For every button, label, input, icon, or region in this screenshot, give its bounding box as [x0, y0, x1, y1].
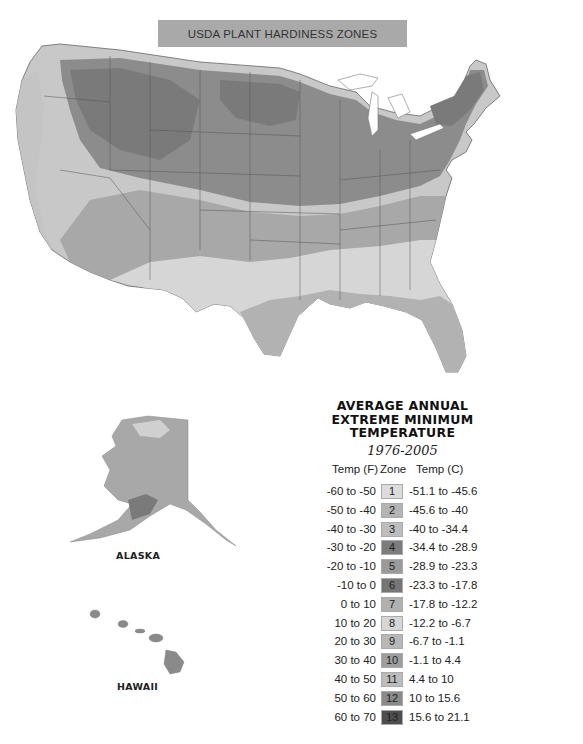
legend-temp-f: -10 to 0	[337, 579, 376, 591]
zone-swatch: 10	[381, 653, 403, 668]
legend-row: 10 to 208-12.2 to -6.7	[320, 615, 520, 634]
legend-temp-c: 10 to 15.6	[409, 692, 460, 704]
legend-row: -10 to 06-23.3 to -17.8	[320, 577, 520, 596]
legend-temp-f: 20 to 30	[334, 635, 376, 647]
legend-temp-c: -45.6 to -40	[409, 504, 468, 516]
legend-temp-c: -40 to -34.4	[409, 523, 468, 535]
legend-temp-f: -60 to -50	[327, 485, 376, 497]
zone-swatch: 12	[381, 691, 403, 706]
legend-temp-f: 40 to 50	[334, 673, 376, 685]
alaska-label: ALASKA	[116, 550, 160, 561]
legend-temp-c: -28.9 to -23.3	[409, 560, 477, 572]
legend-row: -40 to -303-40 to -34.4	[320, 521, 520, 540]
legend-period: 1976-2005	[310, 443, 495, 458]
legend-col-temp-c: Temp (C)	[416, 463, 463, 475]
zone-swatch: 6	[381, 578, 403, 593]
zone-swatch: 11	[381, 672, 403, 687]
legend-title: AVERAGE ANNUAL EXTREME MINIMUM TEMPERATU…	[310, 399, 495, 440]
gulf-coast-band	[240, 290, 466, 372]
legend-row: -20 to -105-28.9 to -23.3	[320, 558, 520, 577]
legend-row: 60 to 701315.6 to 21.1	[320, 709, 520, 728]
hawaii-label: HAWAII	[117, 681, 158, 692]
legend-title-line-1: AVERAGE ANNUAL	[310, 399, 495, 413]
legend-title-line-2: EXTREME MINIMUM	[310, 413, 495, 427]
legend-temp-c: 4.4 to 10	[409, 673, 454, 685]
zone-swatch: 1	[381, 484, 403, 499]
zone-swatch: 3	[381, 522, 403, 537]
legend-temp-c: -17.8 to -12.2	[409, 598, 477, 610]
lake-superior	[338, 74, 378, 90]
legend-temp-f: 60 to 70	[334, 711, 376, 723]
legend-temp-f: -50 to -40	[327, 504, 376, 516]
legend-row: 30 to 4010-1.1 to 4.4	[320, 652, 520, 671]
legend-col-zone: Zone	[380, 463, 406, 475]
legend-rows: -60 to -501-51.1 to -45.6-50 to -402-45.…	[320, 483, 520, 727]
zone-swatch: 5	[381, 559, 403, 574]
legend-title-line-3: TEMPERATURE	[310, 426, 495, 440]
legend-temp-c: -1.1 to 4.4	[409, 654, 461, 666]
zone-swatch: 13	[381, 710, 403, 725]
zone-swatch: 8	[381, 616, 403, 631]
legend-row: -30 to -204-34.4 to -28.9	[320, 539, 520, 558]
legend-temp-f: -30 to -20	[327, 541, 376, 553]
legend-row: 0 to 107-17.8 to -12.2	[320, 596, 520, 615]
legend-temp-c: -23.3 to -17.8	[409, 579, 477, 591]
legend-row: -50 to -402-45.6 to -40	[320, 502, 520, 521]
legend-temp-c: -34.4 to -28.9	[409, 541, 477, 553]
legend-temp-f: -20 to -10	[327, 560, 376, 572]
legend-col-temp-f: Temp (F)	[332, 463, 378, 475]
zone-swatch: 2	[381, 503, 403, 518]
legend-row: 20 to 309-6.7 to -1.1	[320, 633, 520, 652]
legend-temp-f: -40 to -30	[327, 523, 376, 535]
legend-temp-f: 50 to 60	[334, 692, 376, 704]
zone-swatch: 9	[381, 634, 403, 649]
map-title: USDA PLANT HARDINESS ZONES	[158, 20, 407, 47]
hawaii-islands	[90, 610, 184, 674]
legend-row: 40 to 50114.4 to 10	[320, 671, 520, 690]
zone-swatch: 4	[381, 540, 403, 555]
legend-row: -60 to -501-51.1 to -45.6	[320, 483, 520, 502]
legend-temp-c: -6.7 to -1.1	[409, 635, 465, 647]
legend-row: 50 to 601210 to 15.6	[320, 690, 520, 709]
legend-temp-c: -51.1 to -45.6	[409, 485, 477, 497]
zone-swatch: 7	[381, 597, 403, 612]
legend-temp-f: 10 to 20	[334, 617, 376, 629]
legend-temp-c: -12.2 to -6.7	[409, 617, 471, 629]
legend-temp-f: 30 to 40	[334, 654, 376, 666]
legend-temp-f: 0 to 10	[341, 598, 376, 610]
legend-temp-c: 15.6 to 21.1	[409, 711, 470, 723]
